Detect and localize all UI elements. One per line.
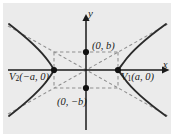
vertex-left-dot bbox=[51, 67, 57, 73]
x-axis-label: x bbox=[163, 60, 167, 70]
vertex-left-coordinates: (−a, 0) bbox=[19, 71, 49, 82]
co-vertex-bottom-dot bbox=[83, 85, 89, 91]
vertex-right-coordinates: (a, 0) bbox=[131, 71, 154, 82]
hyperbola-figure: y x (0, b) (0, −b) V2(−a, 0) V1(a, 0) bbox=[0, 0, 174, 137]
co-vertex-top-dot bbox=[83, 49, 89, 55]
y-axis-label: y bbox=[88, 8, 93, 19]
vertex-left-label: V2(−a, 0) bbox=[9, 72, 49, 83]
vertex-right-label: V1(a, 0) bbox=[121, 72, 154, 83]
co-vertex-bottom-label: (0, −b) bbox=[57, 97, 87, 108]
hyperbola-plot bbox=[0, 0, 174, 137]
co-vertex-top-label: (0, b) bbox=[92, 41, 115, 52]
